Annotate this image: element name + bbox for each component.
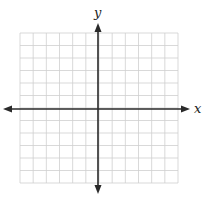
x-axis-left-arrow-icon [3, 106, 12, 113]
y-axis-down-arrow-icon [95, 185, 102, 194]
y-axis-up-arrow-icon [95, 23, 102, 32]
x-axis [3, 106, 190, 113]
grid-lines [20, 33, 178, 183]
coordinate-plane: x y [0, 0, 210, 203]
x-axis-label: x [194, 101, 202, 116]
x-axis-right-arrow-icon [181, 106, 190, 113]
y-axis-label: y [93, 5, 102, 20]
